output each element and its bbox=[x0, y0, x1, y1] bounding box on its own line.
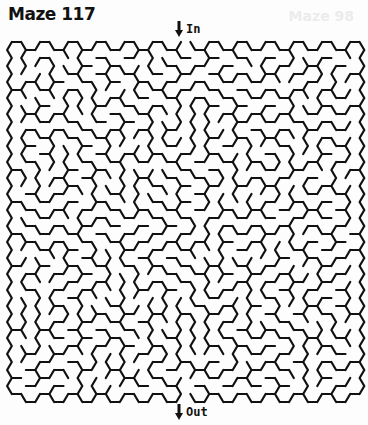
arrow-down-icon bbox=[175, 404, 183, 420]
maze-walls bbox=[7, 42, 364, 402]
maze-grid bbox=[0, 0, 368, 425]
exit-marker: Out bbox=[175, 404, 208, 420]
exit-label: Out bbox=[186, 405, 208, 419]
